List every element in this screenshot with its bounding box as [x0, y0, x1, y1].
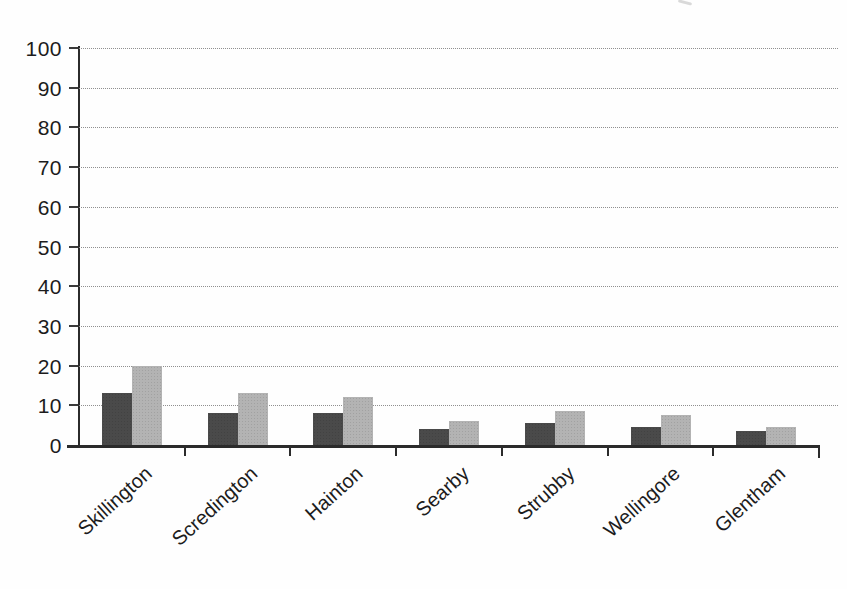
y-tick	[69, 246, 78, 248]
x-tick	[184, 447, 186, 456]
y-tick-label: 20	[18, 355, 62, 376]
x-category-label: Strubby	[513, 462, 579, 524]
chart: 0102030405060708090100SkillingtonScredin…	[0, 0, 847, 589]
bar-searby-dark-gray-series	[419, 429, 449, 445]
bar-skillington-dark-gray-series	[102, 393, 132, 445]
y-tick	[69, 166, 78, 168]
x-tick	[501, 447, 503, 456]
y-tick-label: 100	[18, 38, 62, 59]
x-category-label: Wellingore	[599, 462, 684, 541]
x-category-label: Skillington	[73, 462, 155, 539]
y-tick-label: 0	[18, 435, 62, 456]
y-gridline	[79, 326, 838, 327]
y-tick	[69, 285, 78, 287]
x-category-label: Hainton	[301, 462, 367, 524]
y-tick-label: 90	[18, 77, 62, 98]
y-gridline	[79, 48, 838, 49]
bar-wellingore-dark-gray-series	[631, 427, 661, 445]
bar-glentham-light-gray-series	[766, 427, 796, 445]
y-gridline	[79, 207, 838, 208]
y-tick-label: 40	[18, 276, 62, 297]
x-tick	[395, 447, 397, 456]
bar-strubby-light-gray-series	[555, 411, 585, 445]
y-gridline	[79, 247, 838, 248]
y-tick	[69, 87, 78, 89]
bar-hainton-dark-gray-series	[313, 413, 343, 445]
y-tick-label: 60	[18, 196, 62, 217]
x-axis-line	[67, 445, 820, 448]
x-tick	[712, 447, 714, 456]
x-tick	[607, 447, 609, 456]
x-tick	[818, 447, 820, 458]
y-tick-label: 30	[18, 315, 62, 336]
y-gridline	[79, 405, 838, 406]
y-tick	[69, 325, 78, 327]
bar-strubby-dark-gray-series	[525, 423, 555, 445]
bar-searby-light-gray-series	[449, 421, 479, 445]
bar-scredington-dark-gray-series	[208, 413, 238, 445]
bar-skillington-light-gray-series	[132, 366, 162, 445]
y-gridline	[79, 167, 838, 168]
y-gridline	[79, 286, 838, 287]
y-tick-label: 80	[18, 117, 62, 138]
x-category-label: Scredington	[168, 462, 262, 550]
bar-glentham-dark-gray-series	[736, 431, 766, 445]
y-tick-label: 50	[18, 236, 62, 257]
y-tick-label: 70	[18, 157, 62, 178]
y-gridline	[79, 366, 838, 367]
x-category-label: Searby	[411, 462, 473, 521]
bar-scredington-light-gray-series	[238, 393, 268, 445]
y-tick	[69, 126, 78, 128]
x-tick	[289, 447, 291, 456]
y-tick	[69, 206, 78, 208]
y-tick	[69, 404, 78, 406]
y-gridline	[79, 88, 838, 89]
scan-artifact	[678, 0, 692, 6]
y-tick	[69, 47, 78, 49]
bar-wellingore-light-gray-series	[661, 415, 691, 445]
y-tick-label: 10	[18, 395, 62, 416]
y-gridline	[79, 127, 838, 128]
x-category-label: Glentham	[711, 462, 790, 536]
y-tick	[69, 365, 78, 367]
bar-hainton-light-gray-series	[343, 397, 373, 445]
